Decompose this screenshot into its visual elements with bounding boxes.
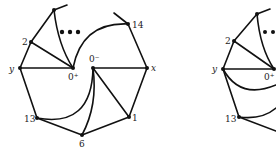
vertex-top bbox=[52, 8, 56, 12]
edge-13-right bbox=[239, 117, 276, 131]
edge-1-x bbox=[129, 68, 147, 117]
vertex-y bbox=[221, 67, 225, 71]
label-13: 13 bbox=[225, 114, 237, 124]
edge-0minus-1 bbox=[93, 68, 129, 117]
vertex-14 bbox=[126, 22, 130, 26]
edge-2-top bbox=[31, 10, 54, 42]
label-0minus: 0⁻ bbox=[89, 54, 100, 64]
vertex-y bbox=[18, 66, 22, 70]
ellipsis-dot bbox=[271, 30, 275, 34]
vertex-6 bbox=[80, 133, 84, 137]
vertex-1 bbox=[127, 115, 131, 119]
label-2: 2 bbox=[22, 37, 28, 47]
arc-13-right bbox=[239, 108, 276, 118]
label-0plus: 0⁺ bbox=[68, 72, 79, 82]
vertex-13 bbox=[35, 116, 39, 120]
vertex-top bbox=[255, 12, 259, 16]
vertex-0plus bbox=[71, 66, 75, 70]
edge-x-14 bbox=[128, 24, 147, 68]
label-13: 13 bbox=[24, 114, 36, 124]
arc-top-0plus bbox=[257, 14, 274, 69]
edge-2-top bbox=[234, 14, 257, 41]
vertex-13 bbox=[237, 115, 241, 119]
vertex-2 bbox=[29, 40, 33, 44]
label-y: y bbox=[211, 64, 218, 74]
figure-canvas: y 2 0⁺ 0⁻ x 14 1 6 13 y 2 0⁺ 13 bbox=[0, 0, 276, 150]
vertex-0minus bbox=[91, 66, 95, 70]
edge-y-13 bbox=[20, 68, 37, 118]
arc-top-0plus bbox=[54, 10, 73, 68]
vertex-x bbox=[145, 66, 149, 70]
edge-2-0plus bbox=[234, 41, 274, 69]
vertex-0plus bbox=[272, 67, 276, 71]
ellipsis-dot bbox=[76, 30, 80, 34]
edge-y-13 bbox=[223, 69, 239, 117]
label-14: 14 bbox=[132, 20, 144, 30]
edge-top-stub bbox=[54, 5, 67, 10]
arc-0plus-14 bbox=[73, 24, 128, 68]
label-6: 6 bbox=[79, 139, 85, 149]
edge-14-stub bbox=[114, 13, 128, 24]
ellipsis-dot bbox=[263, 30, 267, 34]
label-1: 1 bbox=[132, 113, 138, 123]
vertex-2 bbox=[232, 39, 236, 43]
ellipsis-dot bbox=[68, 30, 72, 34]
label-x: x bbox=[151, 63, 156, 73]
ellipsis-dot bbox=[60, 30, 64, 34]
edge-top-stub bbox=[257, 9, 270, 14]
edge-13-6 bbox=[37, 118, 82, 135]
label-y: y bbox=[8, 64, 15, 74]
label-2: 2 bbox=[225, 36, 231, 46]
label-0plus: 0⁺ bbox=[264, 72, 275, 82]
right-diagram: y 2 0⁺ 13 bbox=[211, 9, 276, 131]
arc-0minus-13 bbox=[37, 68, 93, 119]
left-diagram: y 2 0⁺ 0⁻ x 14 1 6 13 bbox=[8, 5, 156, 149]
